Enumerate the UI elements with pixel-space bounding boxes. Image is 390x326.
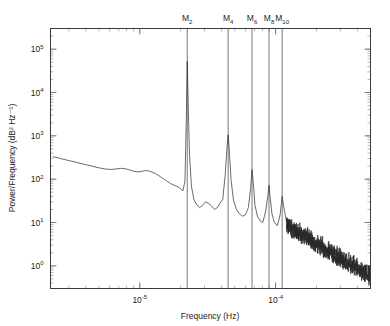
x-tick-labels: 10-510-4 [132,294,283,305]
y-axis-title: Power/Frequency (dB² Hz⁻¹) [7,104,17,213]
spectrum-series-layer [53,61,370,285]
marker-label-M6: M6 [247,13,258,25]
noise-band-trace [286,218,370,286]
marker-label-M8: M8 [264,13,275,25]
y-tick-label-2: 102 [31,174,44,185]
y-tick-label-1: 101 [31,217,44,228]
x-axis-title: Frequency (Hz) [181,311,240,321]
tidal-constituent-labels: M2M4M6M8M10 [182,13,290,25]
y-tick-label-3: 103 [31,130,44,141]
y-tick-label-4: 104 [31,87,44,98]
marker-label-M4: M4 [223,13,234,25]
marker-label-M2: M2 [182,13,193,25]
tidal-constituent-lines [187,29,282,289]
figure-container: 10-510-4 100101102103104105 M2M4M6M8M10 … [0,0,390,326]
y-tick-label-5: 105 [31,44,44,55]
y-tick-labels: 100101102103104105 [31,44,44,271]
y-tick-label-0: 100 [31,260,44,271]
marker-label-M10: M10 [275,13,289,25]
x-tick-label-1: 10-4 [268,294,283,305]
psd-chart: 10-510-4 100101102103104105 M2M4M6M8M10 … [0,0,390,326]
x-tick-label-0: 10-5 [132,294,147,305]
